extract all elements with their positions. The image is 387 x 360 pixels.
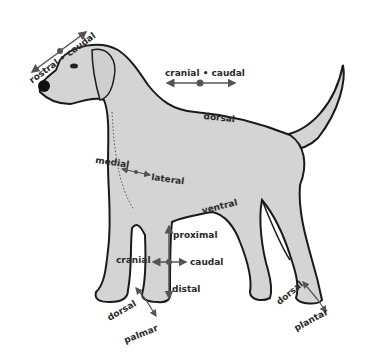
label-proximal: proximal: [173, 231, 218, 240]
dog-eye: [70, 64, 78, 69]
dog-anatomy-diagram: rostral • caudal cranial • caudal dorsal…: [0, 0, 387, 360]
label-cranial-leg: cranial: [116, 256, 151, 265]
dog-nose: [38, 80, 50, 92]
label-distal: distal: [172, 285, 200, 294]
label-caudal-leg: caudal: [190, 258, 223, 267]
label-cranial-caudal: cranial • caudal: [165, 69, 245, 78]
